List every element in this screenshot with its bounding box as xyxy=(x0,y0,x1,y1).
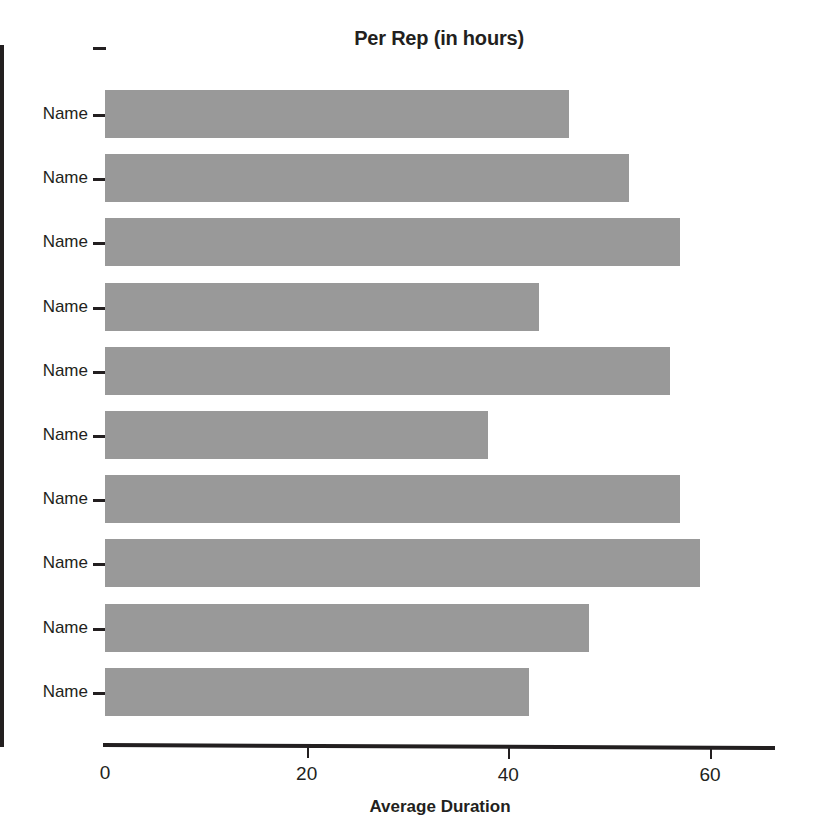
y-axis-tick-label: Name xyxy=(4,425,88,445)
x-axis-line xyxy=(103,743,775,750)
x-axis-tick-label: 20 xyxy=(296,763,317,785)
y-axis-tick-label: Name xyxy=(4,168,88,188)
x-axis-tick-label: 40 xyxy=(498,764,519,786)
y-axis-tick-label: Name xyxy=(4,553,88,573)
bar xyxy=(105,347,670,395)
y-axis-tick-label: Name xyxy=(4,618,88,638)
bar xyxy=(105,283,539,331)
x-axis-tick-label: 60 xyxy=(699,764,720,786)
y-axis-tick xyxy=(93,47,106,50)
bar xyxy=(105,475,680,523)
bar-chart: Per Rep (in hours) NameNameNameNameNameN… xyxy=(0,0,818,839)
y-axis-tick-label: Name xyxy=(4,297,88,317)
y-axis-tick-label: Name xyxy=(4,682,88,702)
bar xyxy=(105,218,680,266)
bar xyxy=(105,154,629,202)
x-axis-tick xyxy=(307,747,309,758)
x-axis-tick-label: 0 xyxy=(100,762,111,784)
chart-title: Per Rep (in hours) xyxy=(0,27,818,50)
bar xyxy=(105,604,589,652)
y-axis-tick-label: Name xyxy=(4,489,88,509)
bar xyxy=(105,539,700,587)
x-axis-tick xyxy=(508,748,510,759)
y-axis-tick-label: Name xyxy=(4,104,88,124)
bar xyxy=(105,668,529,716)
x-axis-tick xyxy=(710,748,712,759)
y-axis-tick-label: Name xyxy=(4,232,88,252)
bar xyxy=(105,411,488,459)
x-axis-title: Average Duration xyxy=(105,797,775,817)
bar xyxy=(105,90,569,138)
y-axis-tick-label: Name xyxy=(4,361,88,381)
y-axis-tick-labels: NameNameNameNameNameNameNameNameNameName xyxy=(0,0,88,839)
